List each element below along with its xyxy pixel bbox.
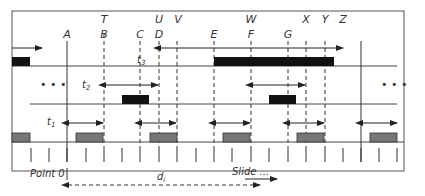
- label-Y: Y: [322, 13, 330, 26]
- row2-black-bar-1: [122, 95, 149, 104]
- timing-diagram: T U V W X Y Z A B C D E F G t3 • • • • •…: [0, 0, 425, 196]
- point-0-label: Point 0: [30, 168, 65, 179]
- label-t3: t3: [137, 54, 145, 67]
- row1-black-bar-left: [12, 57, 30, 66]
- label-X: X: [301, 13, 310, 26]
- time-ticks: [31, 148, 397, 162]
- label-B: B: [100, 28, 108, 41]
- label-G: G: [284, 28, 293, 41]
- label-Z: Z: [338, 13, 347, 26]
- dashed-markers: [104, 34, 325, 148]
- label-U: U: [155, 13, 163, 26]
- row3-gray-bars: [12, 133, 397, 142]
- slide-label: Slide ...: [232, 166, 269, 177]
- label-d-i: di: [157, 171, 165, 184]
- label-T: T: [101, 13, 109, 26]
- label-A: A: [62, 28, 71, 41]
- ellipsis-right: • • •: [381, 78, 407, 91]
- label-C: C: [136, 28, 144, 41]
- row1-black-bar-main: [214, 57, 334, 66]
- row2-black-bar-2: [269, 95, 296, 104]
- label-F: F: [248, 28, 255, 41]
- label-E: E: [211, 28, 218, 41]
- label-D: D: [155, 28, 163, 41]
- label-V: V: [174, 13, 183, 26]
- diagram-frame: [12, 11, 404, 171]
- label-t2: t2: [82, 79, 91, 92]
- ellipsis-left: • • •: [40, 78, 66, 91]
- label-W: W: [246, 13, 258, 26]
- label-t1: t1: [47, 116, 55, 129]
